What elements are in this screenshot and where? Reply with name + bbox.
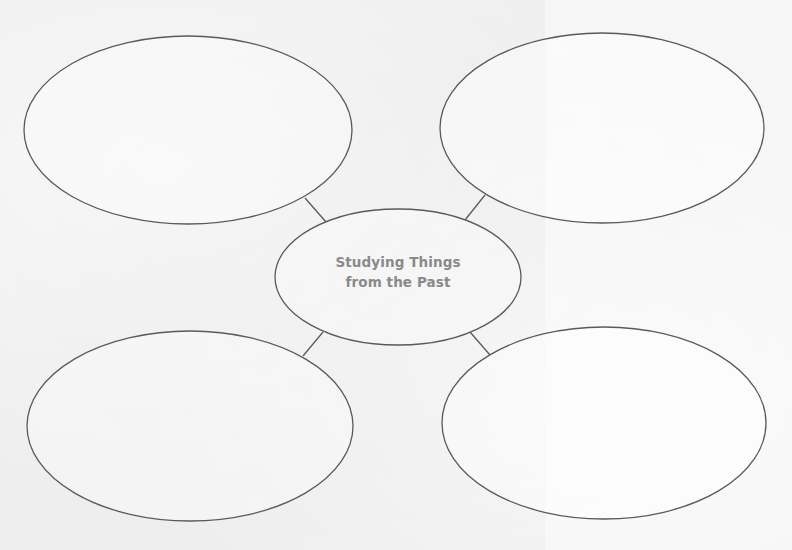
bubble-bottom-left[interactable] [27, 331, 353, 521]
connector-top-left [305, 198, 326, 222]
connector-bottom-left [303, 332, 323, 356]
center-topic-line-1: Studying Things [300, 252, 496, 272]
connector-bottom-right [470, 332, 490, 355]
bubble-bottom-right[interactable] [442, 327, 766, 519]
connector-top-right [465, 195, 485, 220]
concept-web-canvas: Studying Things from the Past [0, 0, 792, 550]
bubble-top-left[interactable] [24, 36, 352, 224]
center-topic-label: Studying Things from the Past [300, 252, 496, 292]
bubble-top-right[interactable] [440, 33, 764, 223]
center-topic-line-2: from the Past [300, 272, 496, 292]
